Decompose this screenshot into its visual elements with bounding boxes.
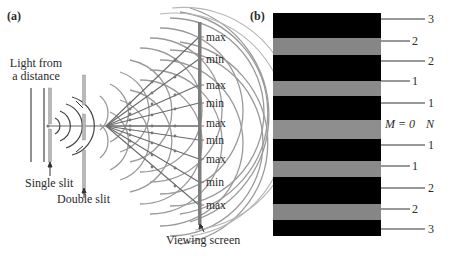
fringe-label: 3 [428, 12, 434, 27]
bright-fringe [273, 161, 381, 177]
screen-marker-max: max [206, 117, 226, 129]
bright-fringe [273, 38, 381, 55]
fringe-label: 3 [428, 222, 434, 237]
center-order-label: M = 0 N [385, 117, 434, 132]
double-slit-label: Double slit [57, 193, 110, 206]
center-m-label: M = 0 [385, 117, 415, 131]
screen-marker-max: max [206, 153, 226, 165]
single-slit-barrier [49, 88, 52, 124]
screen-marker-max: max [206, 199, 226, 211]
fringe-pattern-photo [273, 13, 381, 236]
fringe-label: 1 [412, 159, 418, 174]
bright-fringe-central [273, 120, 381, 139]
double-slit-barrier [83, 114, 86, 140]
fringe-label: 2 [412, 202, 418, 217]
bright-fringe [273, 81, 381, 96]
bright-fringe [273, 204, 381, 220]
fringe-label: 2 [412, 34, 418, 49]
fringe-label: 2 [428, 54, 434, 69]
double-slit-barrier [83, 150, 86, 190]
fringe-label: 1 [412, 74, 418, 89]
light-source-label-line2: a distance [5, 70, 67, 83]
screen-marker-min: min [206, 53, 224, 65]
light-source-label: Light from a distance [5, 57, 67, 83]
viewing-screen [198, 22, 202, 225]
fringe-label: 1 [428, 96, 434, 111]
single-slit-label: Single slit [25, 177, 73, 190]
fringe-label: 2 [428, 181, 434, 196]
single-slit-barrier [49, 129, 52, 162]
screen-marker-min: min [206, 134, 224, 146]
fringe-label: 1 [428, 138, 434, 153]
viewing-screen-label: Viewing screen [166, 234, 240, 247]
center-n-label: N [426, 117, 434, 131]
screen-marker-min: min [206, 97, 224, 109]
screen-marker-max: max [206, 31, 226, 43]
double-slit-barrier [83, 75, 86, 105]
panel-a-label: (a) [7, 9, 21, 24]
screen-marker-max: max [206, 79, 226, 91]
panel-b-label: (b) [250, 9, 265, 24]
screen-marker-min: min [206, 176, 224, 188]
